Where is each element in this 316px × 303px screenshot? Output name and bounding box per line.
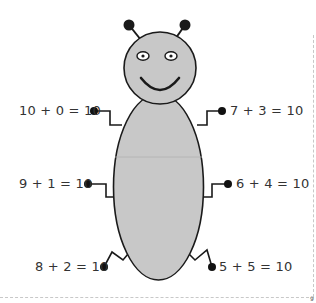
bug-illustration	[0, 0, 316, 303]
equation-bottom-left: 8 + 2 = 10	[35, 259, 108, 275]
leg-bottom-right	[189, 250, 212, 267]
bug-head	[124, 32, 196, 104]
eye-left	[137, 52, 149, 60]
equation-top-left: 10 + 0 = 10	[19, 103, 101, 119]
equation-middle-left: 9 + 1 = 10	[19, 176, 92, 192]
equation-bottom-right: 5 + 5 = 10	[219, 259, 292, 275]
page-number: 9	[310, 295, 314, 302]
leg-middle-right	[203, 184, 228, 197]
leg-top-right	[197, 111, 222, 125]
equation-middle-right: 6 + 4 = 10	[236, 176, 309, 192]
equation-top-right: 7 + 3 = 10	[230, 103, 303, 119]
bug-body	[114, 94, 204, 280]
eye-right	[165, 52, 177, 60]
